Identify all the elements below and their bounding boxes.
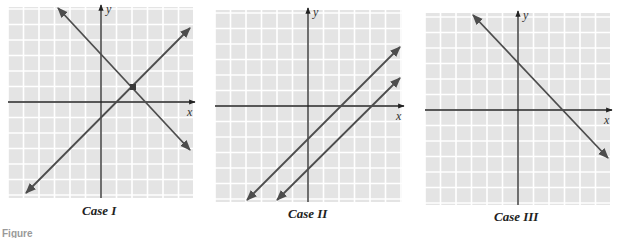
x-axis-label: x [395,109,402,123]
caption-case-2: Case II [288,206,327,222]
figure-label: Figure [2,228,33,238]
intersection-point [130,84,136,90]
x-axis-label: x [603,113,610,127]
panel-case-2: xy Case II [205,0,410,238]
caption-case-1: Case I [82,203,116,219]
graph-case-3: xy [410,0,617,238]
y-axis-label: y [105,2,112,16]
panel-case-3: xy Case III [410,0,617,238]
x-axis-label: x [186,105,193,119]
y-axis-label: y [522,8,529,22]
graph-case-2: xy [205,0,410,238]
panel-case-1: xy Case I [0,0,205,238]
y-axis-label: y [312,5,319,19]
caption-case-3: Case III [494,209,538,225]
